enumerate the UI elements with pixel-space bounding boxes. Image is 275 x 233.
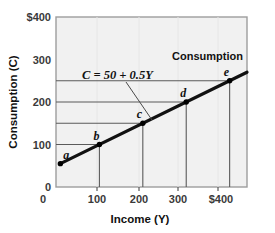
x-tick-label-100: 100 xyxy=(88,193,106,205)
x-axis-title: Income (Y) xyxy=(111,213,170,225)
y-tick-label-200: 200 xyxy=(33,96,51,108)
point-a-marker xyxy=(58,161,63,166)
x-tick-label-0: 0 xyxy=(40,193,46,205)
equation-label: C = 50 + 0.5Y xyxy=(82,68,154,82)
y-axis-title: Consumption (C) xyxy=(7,55,19,148)
x-tick-label-400: $400 xyxy=(209,193,233,205)
curve-name-label: Consumption xyxy=(172,50,243,62)
point-c-label: c xyxy=(137,107,143,121)
y-tick-label-0: 0 xyxy=(45,181,51,193)
y-tick-label-300: 300 xyxy=(33,54,51,66)
point-a-label: a xyxy=(63,148,69,162)
consumption-function-chart: a b c d e Consumption C = 50 + 0.5Y $400… xyxy=(0,0,275,233)
x-tick-label-200: 200 xyxy=(130,193,148,205)
x-tick-label-300: 300 xyxy=(169,193,187,205)
chart-figure: a b c d e Consumption C = 50 + 0.5Y $400… xyxy=(0,0,275,233)
point-e-label: e xyxy=(224,65,230,79)
point-b-label: b xyxy=(93,129,99,143)
y-tick-label-100: 100 xyxy=(33,139,51,151)
point-e-marker xyxy=(227,78,232,83)
point-d-label: d xyxy=(180,86,187,100)
point-b-marker xyxy=(97,142,102,147)
y-tick-label-400: $400 xyxy=(27,11,51,23)
point-c-marker xyxy=(140,121,145,126)
point-d-marker xyxy=(184,99,189,104)
